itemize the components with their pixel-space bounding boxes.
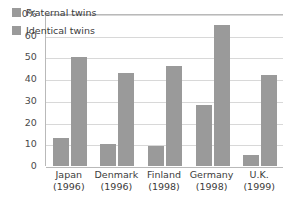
- bar-group: [236, 15, 284, 166]
- legend-swatch-icon: [12, 8, 21, 17]
- x-axis-category-label: U.K.(1999): [235, 169, 283, 193]
- bar: [261, 75, 277, 166]
- y-axis-tick-label: 20: [25, 118, 37, 128]
- bar: [243, 155, 259, 166]
- x-axis-category-year: (1996): [45, 181, 93, 193]
- bar-group: [94, 15, 142, 166]
- y-axis-tick-label: 0: [31, 161, 37, 171]
- x-axis-category-label: Japan(1996): [45, 169, 93, 193]
- y-axis-tick-label: 40: [25, 74, 37, 84]
- bar-chart: 70%6050403020100 Fraternal twins Identic…: [0, 0, 286, 203]
- bar: [148, 146, 164, 166]
- x-axis-category-year: (1996): [93, 181, 141, 193]
- bar-group: [141, 15, 189, 166]
- bar: [166, 66, 182, 166]
- y-axis-tick-label: 10: [25, 139, 37, 149]
- bar-group: [189, 15, 237, 166]
- bar: [118, 73, 134, 166]
- legend-swatch-icon: [12, 26, 21, 35]
- y-axis-tick-label: 30: [25, 96, 37, 106]
- bar: [71, 57, 87, 166]
- x-axis-category-name: Finland: [147, 169, 181, 180]
- bar: [196, 105, 212, 166]
- x-axis-category-year: (1998): [140, 181, 188, 193]
- bar: [53, 138, 69, 166]
- legend-item-identical: Identical twins: [12, 23, 96, 38]
- bar: [214, 25, 230, 166]
- y-axis-tick-label: 50: [25, 52, 37, 62]
- x-axis-category-name: Denmark: [95, 169, 139, 180]
- x-axis-category-year: (1999): [235, 181, 283, 193]
- x-axis: Japan(1996)Denmark(1996)Finland(1998)Ger…: [45, 167, 283, 203]
- legend-label-fraternal: Fraternal twins: [26, 8, 96, 18]
- x-axis-category-label: Denmark(1996): [93, 169, 141, 193]
- legend-item-fraternal: Fraternal twins: [12, 5, 96, 20]
- legend: Fraternal twins Identical twins: [12, 5, 96, 41]
- x-axis-category-name: Germany: [190, 169, 234, 180]
- bar: [100, 144, 116, 166]
- x-axis-category-label: Germany(1998): [188, 169, 236, 193]
- x-axis-category-year: (1998): [188, 181, 236, 193]
- x-axis-category-label: Finland(1998): [140, 169, 188, 193]
- x-axis-category-name: Japan: [56, 169, 83, 180]
- legend-label-identical: Identical twins: [26, 26, 95, 36]
- x-axis-category-name: U.K.: [250, 169, 269, 180]
